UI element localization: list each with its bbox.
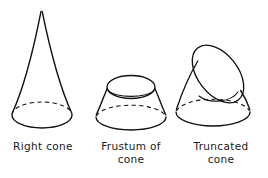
caption-truncated-cone: Truncated cone: [176, 140, 266, 165]
right-cone-right-slant-edge: [42, 12, 72, 114]
frustum-top-rim-ellipse: [107, 76, 155, 99]
truncated-cone-base-front-arc: [176, 112, 250, 126]
caption-frustum-of-cone: Frustum of cone: [88, 140, 174, 165]
right-cone-left-slant-edge: [12, 12, 41, 114]
truncated-cone-figure: [176, 36, 254, 126]
right-cone-base-front-arc: [12, 115, 72, 128]
frustum-left-slant-edge: [96, 89, 107, 116]
truncated-cone-left-slant-edge: [176, 61, 197, 110]
frustum-right-slant-edge: [155, 89, 166, 116]
caption-right-cone: Right cone: [2, 140, 84, 153]
frustum-base-hidden-arc: [97, 105, 166, 116]
right-cone-figure: [12, 12, 72, 129]
frustum-base-front-arc: [96, 117, 166, 130]
right-cone-base-hidden-arc: [12, 102, 72, 115]
figure-plate: Right cone Frustum of cone Truncated con…: [0, 0, 268, 178]
frustum-figure: [96, 76, 166, 130]
truncated-cone-right-slant-edge: [241, 91, 250, 110]
